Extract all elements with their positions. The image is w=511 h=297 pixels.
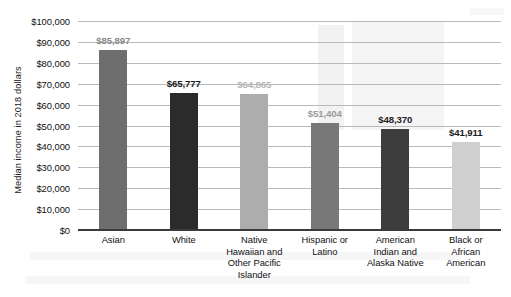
x-axis-category-label: NativeHawaiian andOther PacificIslander <box>219 234 290 280</box>
y-axis-tick-label: $80,000 <box>36 57 70 68</box>
bar-chart: Median income in 2018 dollars $100,000$9… <box>0 0 511 297</box>
category-label-line: Asian <box>78 234 149 246</box>
x-axis-category-label: Black orAfricanAmerican <box>431 234 502 269</box>
y-axis-tick-label: $20,000 <box>36 183 70 194</box>
bar <box>452 142 480 230</box>
bar-group: $51,404 <box>290 21 361 230</box>
x-axis-category-label: White <box>149 234 220 246</box>
category-label-line: Hawaiian and <box>219 246 290 258</box>
category-label-line: American <box>360 234 431 246</box>
y-axis-tick-label: $50,000 <box>36 120 70 131</box>
page-bleed-artifact <box>470 8 504 15</box>
category-label-line: Islander <box>219 269 290 281</box>
category-label-line: Hispanic or <box>290 234 361 246</box>
category-label-line: Indian and <box>360 246 431 258</box>
bar-value-label: $65,777 <box>167 78 201 89</box>
category-label-line: Latino <box>290 246 361 258</box>
category-label-line: Black or <box>431 234 502 246</box>
category-label-line: American <box>431 257 502 269</box>
y-axis-tick-label: $40,000 <box>36 141 70 152</box>
bar-group: $64,865 <box>219 21 290 230</box>
category-label-line: White <box>149 234 220 246</box>
bar <box>240 94 268 230</box>
x-axis-category-labels: AsianWhiteNativeHawaiian andOther Pacifi… <box>78 234 501 297</box>
y-axis-tick-label: $100,000 <box>31 16 70 27</box>
category-label-line: Native <box>219 234 290 246</box>
y-axis-tick-label: $30,000 <box>36 162 70 173</box>
y-axis-tick-label: $70,000 <box>36 78 70 89</box>
x-axis-category-label: Asian <box>78 234 149 246</box>
bar-value-label: $85,897 <box>96 35 130 46</box>
category-label-line: Alaska Native <box>360 257 431 269</box>
x-axis-category-label: AmericanIndian andAlaska Native <box>360 234 431 269</box>
bar-group: $48,370 <box>360 21 431 230</box>
y-axis-tick-label: $10,000 <box>36 204 70 215</box>
bar <box>99 50 127 230</box>
bar-group: $41,911 <box>431 21 502 230</box>
y-axis-tick-labels: $100,000$90,000$80,000$70,000$60,000$50,… <box>0 0 74 297</box>
bar-value-label: $64,865 <box>237 79 271 90</box>
y-axis-tick-label: $60,000 <box>36 99 70 110</box>
y-axis-tick-label: $90,000 <box>36 36 70 47</box>
bar-group: $85,897 <box>78 21 149 230</box>
bar-group: $65,777 <box>149 21 220 230</box>
bar-value-label: $41,911 <box>449 127 482 138</box>
category-label-line: African <box>431 246 502 258</box>
bar <box>170 93 198 230</box>
bar <box>381 129 409 230</box>
bar-value-label: $48,370 <box>378 114 412 125</box>
bar-value-label: $51,404 <box>308 108 342 119</box>
category-label-line: Other Pacific <box>219 257 290 269</box>
y-axis-tick-label: $0 <box>60 225 70 236</box>
bar <box>311 123 339 230</box>
x-axis-line <box>78 229 501 231</box>
plot-area: $85,897$65,777$64,865$51,404$48,370$41,9… <box>78 21 501 230</box>
x-axis-category-label: Hispanic orLatino <box>290 234 361 257</box>
